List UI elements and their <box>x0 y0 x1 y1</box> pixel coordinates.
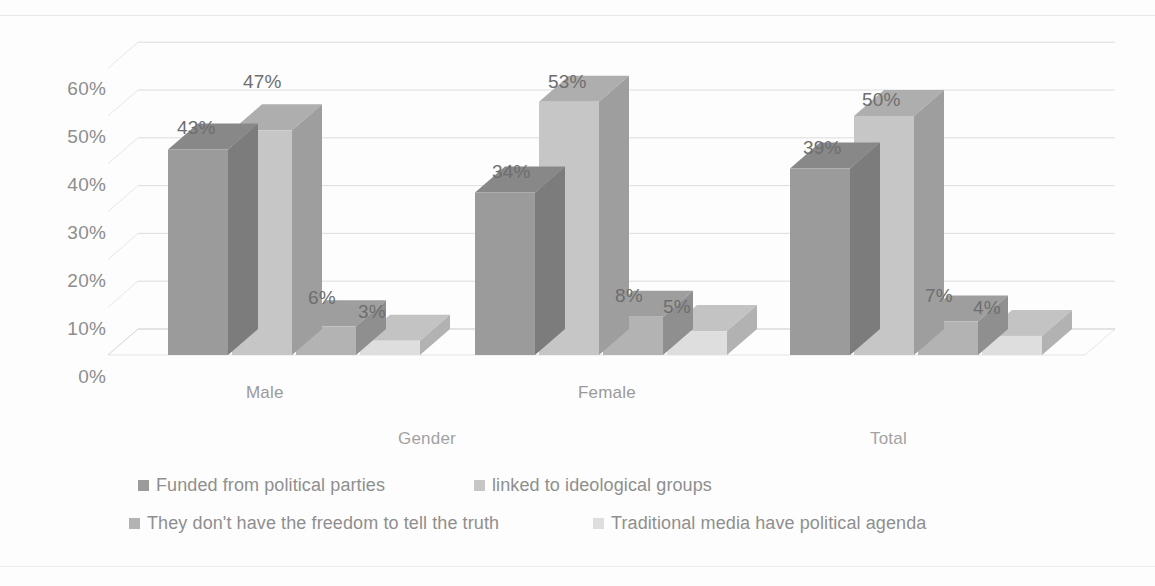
data-label-female-s2: 53% <box>548 71 587 93</box>
legend-item-funded[interactable]: Funded from political parties <box>138 475 385 496</box>
legend-swatch-traditional <box>593 518 604 529</box>
chart-screenshot: 60% 50% 40% 30% 20% 10% 0% Male Female G… <box>0 0 1155 586</box>
y-tick-10: 10% <box>48 318 106 340</box>
y-tick-30: 30% <box>48 222 106 244</box>
legend-label-ideological: linked to ideological groups <box>492 475 712 496</box>
legend-label-freedom: They don't have the freedom to tell the … <box>147 513 499 534</box>
y-tick-0: 0% <box>48 366 106 388</box>
data-label-female-s1: 34% <box>492 161 531 183</box>
axis-perspective-edge <box>108 138 138 164</box>
group-label-gender: Gender <box>398 429 456 449</box>
axis-perspective-edge <box>108 281 138 307</box>
axis-perspective-edge <box>108 42 138 68</box>
category-label-male: Male <box>246 383 284 403</box>
legend-item-freedom[interactable]: They don't have the freedom to tell the … <box>129 513 499 534</box>
y-tick-40: 40% <box>48 174 106 196</box>
axis-perspective-edge <box>108 233 138 259</box>
legend-swatch-funded <box>138 480 149 491</box>
data-label-female-s4: 5% <box>663 296 691 318</box>
data-label-male-s4: 3% <box>358 301 386 323</box>
y-tick-60: 60% <box>48 78 106 100</box>
legend-label-funded: Funded from political parties <box>156 475 385 496</box>
data-label-total-s4: 4% <box>973 297 1001 319</box>
data-label-total-s2: 50% <box>862 89 901 111</box>
legend-swatch-freedom <box>129 518 140 529</box>
data-label-female-s3: 8% <box>615 285 643 307</box>
bar-total-series1[interactable] <box>790 143 880 355</box>
data-label-total-s1: 39% <box>803 137 842 159</box>
bar-female-series1[interactable] <box>475 166 565 355</box>
chart-legend: Funded from political parties linked to … <box>0 470 1155 565</box>
bar-male-series1[interactable] <box>168 123 258 355</box>
axis-perspective-edge <box>108 186 138 212</box>
data-label-male-s3: 6% <box>308 287 336 309</box>
y-tick-20: 20% <box>48 270 106 292</box>
axis-perspective-edge <box>108 90 138 116</box>
y-tick-50: 50% <box>48 126 106 148</box>
legend-item-ideological[interactable]: linked to ideological groups <box>474 475 712 496</box>
group-label-total: Total <box>870 429 907 449</box>
data-label-male-s2: 47% <box>243 71 282 93</box>
category-label-female: Female <box>578 383 636 403</box>
data-label-total-s3: 7% <box>925 285 953 307</box>
data-label-male-s1: 43% <box>177 117 216 139</box>
legend-swatch-ideological <box>474 480 485 491</box>
legend-item-traditional[interactable]: Traditional media have political agenda <box>593 513 926 534</box>
scan-artifact-bottom <box>0 566 1155 567</box>
legend-label-traditional: Traditional media have political agenda <box>611 513 926 534</box>
